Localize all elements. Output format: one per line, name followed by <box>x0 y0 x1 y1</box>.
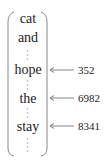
word-cat: cat <box>8 12 48 26</box>
index-label-hope: 352 <box>78 65 95 76</box>
word-stay: stay <box>8 120 48 134</box>
word-hope: hope <box>8 63 48 77</box>
index-label-stay: 8341 <box>78 121 100 132</box>
word-the: the <box>8 92 48 106</box>
index-label-the: 6982 <box>78 93 100 104</box>
arrow-icon <box>50 68 74 129</box>
word-and: and <box>8 31 48 45</box>
